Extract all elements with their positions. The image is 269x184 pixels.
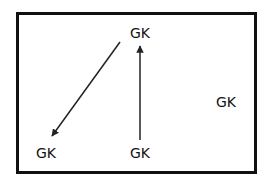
node-right-label: GK: [216, 95, 236, 109]
node-bottom-left-label: GK: [36, 146, 56, 160]
node-bottom-middle-label: GK: [130, 146, 150, 160]
node-top-label: GK: [130, 26, 150, 40]
arrow-top-to-bottom-left: [52, 42, 120, 136]
